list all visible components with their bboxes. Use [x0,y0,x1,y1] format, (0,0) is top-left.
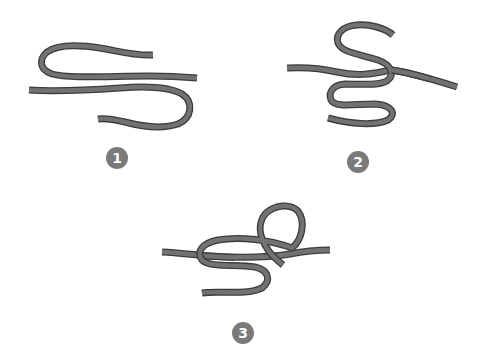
step-1-illustration [29,46,197,127]
step-2-illustration [287,25,457,124]
step-3-working-end [200,206,303,293]
step-1-lower-rope [29,87,190,127]
step-2-number: 2 [353,154,363,170]
step-2-badge: 2 [347,151,369,173]
step-3-illustration [162,206,330,293]
step-1-badge: 1 [106,147,128,169]
step-1-number: 1 [112,150,122,166]
step-3-crossing-overlay [205,256,235,258]
step-1-upper-rope [41,46,197,78]
step-3-number: 3 [238,325,248,341]
step-2-crossing-overlay [392,70,430,79]
step-3-badge: 3 [232,322,254,344]
step-3-standing-line [162,250,330,257]
knot-diagram [0,0,477,360]
